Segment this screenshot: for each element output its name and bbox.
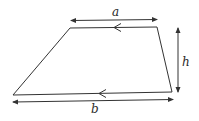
trapezium-diagram: a h b [0,0,199,121]
label-h: h [182,55,190,69]
trapezium-outline [13,27,172,95]
dimension-arrow-a [71,20,157,21]
label-b: b [91,102,99,116]
label-a: a [112,5,119,19]
